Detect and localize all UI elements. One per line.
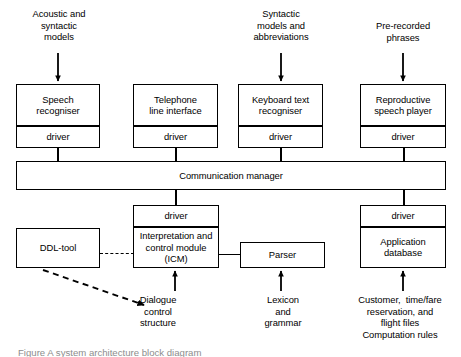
input-label-acoustic-syntactic-models: Acoustic andsyntacticmodels [18,8,100,43]
connector-bus-to-icm [175,190,177,205]
module-icm-driver[interactable]: driver [133,205,219,227]
module-icm[interactable]: Interpretation andcontrol module(ICM) [133,227,219,269]
connector-reproductive-speech-player-to-bus [403,147,405,162]
connector-bus-to-application-database [403,190,405,205]
input-label-syntactic-models-abbreviations: Syntacticmodels andabbreviations [236,8,326,43]
resource-label-dialogue-control-structure: Dialoguecontrolstructure [118,294,198,329]
module-speech-recogniser-driver[interactable]: driver [16,126,100,148]
module-icm-driver-label: driver [162,210,189,221]
module-keyboard-text-recogniser-label: Keyboard textrecogniser [250,94,311,117]
module-parser-label: Parser [267,249,298,260]
connector-ddl-tool-to-icm-dashed [100,253,134,254]
module-speech-recogniser[interactable]: Speechrecogniser [16,84,100,126]
module-application-database-driver-label: driver [389,210,416,221]
module-parser[interactable]: Parser [240,242,325,268]
module-speech-recogniser-driver-label: driver [44,131,71,142]
module-application-database-label: Applicationdatabase [378,236,427,259]
module-reproductive-speech-player-driver-label: driver [389,131,416,142]
communication-manager-bus[interactable]: Communication manager [16,161,446,190]
module-application-database-driver[interactable]: driver [360,205,446,227]
communication-manager-label: Communication manager [177,170,285,181]
module-telephone-line-interface-label: Telephoneline interface [147,94,203,117]
input-label-pre-recorded-phrases: Pre-recordedphrases [358,20,448,43]
module-reproductive-speech-player[interactable]: Reproductivespeech player [360,84,446,126]
connector-speech-recogniser-to-bus [57,147,59,162]
module-application-database[interactable]: Applicationdatabase [360,227,446,269]
module-telephone-line-interface[interactable]: Telephoneline interface [133,84,218,126]
resource-label-application-files: Customer, time/farereservation, andfligh… [340,294,460,340]
resource-label-lexicon-and-grammar: Lexiconandgrammar [243,294,323,329]
connector-telephone-line-interface-to-bus [175,147,177,162]
module-reproductive-speech-player-driver[interactable]: driver [360,126,446,148]
module-keyboard-text-recogniser[interactable]: Keyboard textrecogniser [238,84,323,126]
module-speech-recogniser-label: Speechrecogniser [34,94,81,117]
connector-icm-to-parser [218,254,241,256]
module-telephone-line-interface-driver-label: driver [162,131,189,142]
connector-keyboard-text-recogniser-to-bus [280,147,282,162]
module-icm-label: Interpretation andcontrol module(ICM) [138,230,215,264]
module-ddl-tool[interactable]: DDL-tool [16,228,100,268]
figure-caption: Figure A system architecture block diagr… [0,347,461,357]
module-telephone-line-interface-driver[interactable]: driver [133,126,218,148]
diagram-canvas: Acoustic andsyntacticmodels Syntacticmod… [0,0,461,357]
module-keyboard-text-recogniser-driver[interactable]: driver [238,126,323,148]
module-ddl-tool-label: DDL-tool [38,242,79,253]
module-reproductive-speech-player-label: Reproductivespeech player [372,94,434,117]
module-keyboard-text-recogniser-driver-label: driver [267,131,294,142]
